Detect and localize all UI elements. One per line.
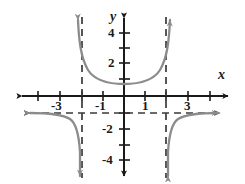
curve-left-branch [30,113,80,176]
y-tick-label-4: 4 [108,26,115,39]
y-tick-label--2: -2 [102,122,113,135]
x-tick-label--1: -1 [95,99,106,112]
y-tick-label-2: 2 [108,56,115,69]
rational-function-plot [0,0,245,184]
y-axis-label: y [110,10,116,24]
x-tick-label-1: 1 [142,99,149,112]
x-tick-label-3: 3 [184,99,191,112]
curve-right-branch [168,113,218,176]
axes-group [22,18,228,176]
graph-figure: x y -3 -1 1 3 4 2 -2 -4 [0,0,245,184]
x-tick-label--3: -3 [51,99,62,112]
y-tick-label--4: -4 [102,153,113,166]
x-axis-label: x [218,68,225,82]
